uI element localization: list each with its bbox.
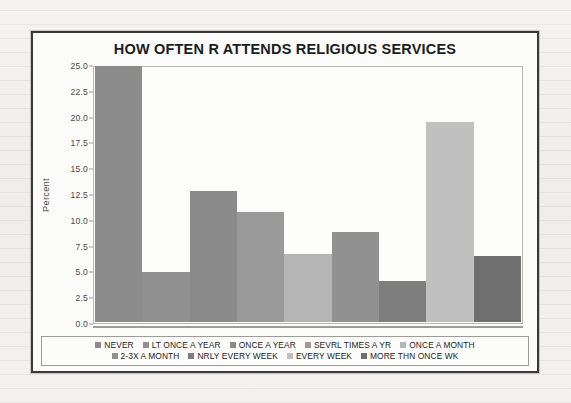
legend-item-label: LT ONCE A YEAR xyxy=(152,340,221,351)
legend-item-label: ONCE A YEAR xyxy=(239,340,296,351)
legend-item[interactable]: LT ONCE A YEAR xyxy=(143,340,221,351)
y-axis-tick-label: 17.5 xyxy=(70,138,88,148)
bar[interactable] xyxy=(142,272,189,322)
legend-swatch-icon xyxy=(230,342,236,348)
legend-item-label: EVERY WEEK xyxy=(296,351,352,362)
bar[interactable] xyxy=(95,66,142,322)
chart-figure: HOW OFTEN R ATTENDS RELIGIOUS SERVICES P… xyxy=(31,31,539,373)
bar[interactable] xyxy=(237,212,284,322)
legend-swatch-icon xyxy=(95,342,101,348)
y-axis-tick-label: 15.0 xyxy=(70,164,88,174)
y-axis-tick-label: 10.0 xyxy=(70,216,88,226)
legend-item[interactable]: SEVRL TIMES A YR xyxy=(305,340,391,351)
y-axis-tick-label: 5.0 xyxy=(75,267,88,277)
y-axis-tick-label: 20.0 xyxy=(70,113,88,123)
plot-wrapper xyxy=(93,66,523,324)
bar[interactable] xyxy=(474,256,521,322)
legend-item[interactable]: ONCE A YEAR xyxy=(230,340,296,351)
legend-row: 2-3X A MONTHNRLY EVERY WEEKEVERY WEEKMOR… xyxy=(46,351,524,362)
legend-swatch-icon xyxy=(143,342,149,348)
y-axis-tick-label: 12.5 xyxy=(70,190,88,200)
legend-item-label: 2-3X A MONTH xyxy=(121,351,180,362)
bar[interactable] xyxy=(379,281,426,322)
legend-swatch-icon xyxy=(305,342,311,348)
legend-item[interactable]: 2-3X A MONTH xyxy=(112,351,180,362)
y-axis-tick-label: 25.0 xyxy=(70,61,88,71)
legend-item-label: NEVER xyxy=(104,340,133,351)
legend-item[interactable]: NRLY EVERY WEEK xyxy=(188,351,277,362)
legend-item-label: SEVRL TIMES A YR xyxy=(314,340,391,351)
y-axis: 0.02.55.07.510.012.515.017.520.022.525.0 xyxy=(33,66,93,324)
legend-swatch-icon xyxy=(188,353,194,359)
legend-item[interactable]: EVERY WEEK xyxy=(287,351,352,362)
legend-item[interactable]: MORE THN ONCE WK xyxy=(361,351,458,362)
legend-item-label: MORE THN ONCE WK xyxy=(370,351,458,362)
legend-item-label: NRLY EVERY WEEK xyxy=(197,351,277,362)
legend-item[interactable]: ONCE A MONTH xyxy=(400,340,474,351)
plot-area xyxy=(93,66,523,324)
y-axis-tick-label: 7.5 xyxy=(75,242,88,252)
legend-swatch-icon xyxy=(400,342,406,348)
chart-title: HOW OFTEN R ATTENDS RELIGIOUS SERVICES xyxy=(33,41,537,57)
bar[interactable] xyxy=(190,191,237,322)
legend-row: NEVERLT ONCE A YEARONCE A YEARSEVRL TIME… xyxy=(46,340,524,351)
legend-swatch-icon xyxy=(361,353,367,359)
y-axis-tick-label: 22.5 xyxy=(70,87,88,97)
legend-item-label: ONCE A MONTH xyxy=(409,340,474,351)
legend-item[interactable]: NEVER xyxy=(95,340,133,351)
y-axis-tick-label: 2.5 xyxy=(75,293,88,303)
bar[interactable] xyxy=(284,254,331,322)
x-axis-baseline xyxy=(93,326,523,328)
bar[interactable] xyxy=(426,122,473,322)
bar[interactable] xyxy=(332,232,379,322)
legend-swatch-icon xyxy=(287,353,293,359)
chart-legend: NEVERLT ONCE A YEARONCE A YEARSEVRL TIME… xyxy=(41,336,529,366)
bar-series xyxy=(95,68,521,322)
legend-swatch-icon xyxy=(112,353,118,359)
y-axis-tick-label: 0.0 xyxy=(75,319,88,329)
